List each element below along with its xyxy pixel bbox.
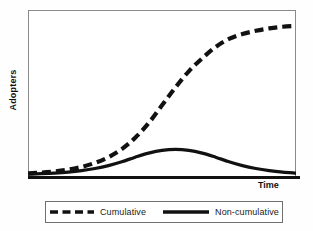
x-axis-title: Time — [258, 180, 279, 190]
series-line-non-cumulative — [28, 149, 296, 174]
curve-layer — [28, 10, 296, 178]
legend-item-cumulative: Cumulative — [49, 207, 146, 217]
chart-legend: Cumulative Non-cumulative — [45, 201, 283, 223]
legend-item-non-cumulative: Non-cumulative — [162, 207, 279, 217]
x-axis-line — [28, 176, 300, 179]
legend-dashed-swatch-icon — [49, 208, 95, 216]
legend-solid-swatch-icon — [162, 208, 210, 216]
diffusion-curve-figure: Adopters Time Cumulative Non-cumulative — [0, 0, 313, 231]
y-axis-title: Adopters — [8, 59, 18, 121]
legend-label-cumulative: Cumulative — [100, 207, 146, 217]
legend-label-non-cumulative: Non-cumulative — [215, 207, 279, 217]
